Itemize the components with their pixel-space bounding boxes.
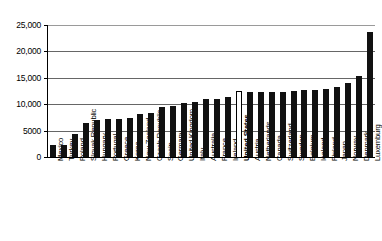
gridline-25000 [47,25,375,26]
y-axis-tick-label: 15,000 [0,73,41,83]
y-axis-tick-label: 10,000 [0,99,41,109]
y-axis-tick-label: 25,000 [0,20,41,30]
x-axis-category-label: Luxemburg [373,124,382,161]
bar-new-zealand [137,114,143,157]
bar-finland [323,89,329,157]
y-axis-line [47,25,48,158]
bar-czech-republic [148,113,154,157]
y-axis-tick-label: 5000 [0,126,41,136]
bar-switzerland [280,92,286,157]
y-axis-tick-label: 0 [0,152,41,162]
bar-iceland [312,90,318,157]
bar-sweden [291,91,297,157]
bar-austria [247,92,253,157]
bar-united-states [236,91,242,157]
bar-hungary [94,120,100,157]
y-axis-tick-label: 20,000 [0,46,41,56]
bar-slovak-republic [83,123,89,157]
bar-canada [269,92,275,157]
bar-netherlands [258,92,264,157]
gridline-15000 [47,78,375,79]
bar-korea [127,118,133,157]
gridline-20000 [47,51,375,52]
bar-spain [159,107,165,157]
bar-greece [116,119,122,157]
bar-portugal [105,119,111,157]
bar-belgium [301,90,307,157]
bar-poland [72,134,78,157]
